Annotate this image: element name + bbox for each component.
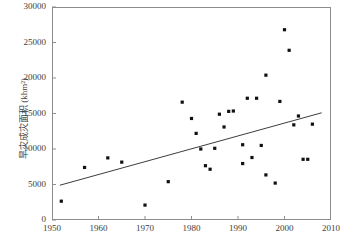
plot-area	[52, 7, 331, 220]
x-tick-label: 1990	[218, 224, 258, 233]
x-tick-label: 2010	[311, 224, 351, 233]
x-tick-label: 2000	[265, 224, 305, 233]
x-tick-label: 1950	[32, 224, 72, 233]
y-tick-label: 10000	[24, 144, 47, 153]
x-tick-label: 1980	[172, 224, 212, 233]
y-tick-label: 5000	[28, 180, 46, 189]
y-tick-label: 30000	[24, 2, 47, 11]
y-tick-label: 20000	[24, 73, 47, 82]
x-tick-label: 1960	[79, 224, 119, 233]
x-tick-label: 1970	[125, 224, 165, 233]
chart-figure: 旱灾成灾面积 (khm²) 05000100001500020000250003…	[0, 0, 356, 251]
y-tick-label: 25000	[24, 38, 47, 47]
y-axis-tick-labels: 050001000015000200002500030000	[0, 0, 46, 251]
y-tick-label: 15000	[24, 109, 47, 118]
x-axis-tick-labels: 1950196019701980199020002010	[0, 224, 356, 240]
